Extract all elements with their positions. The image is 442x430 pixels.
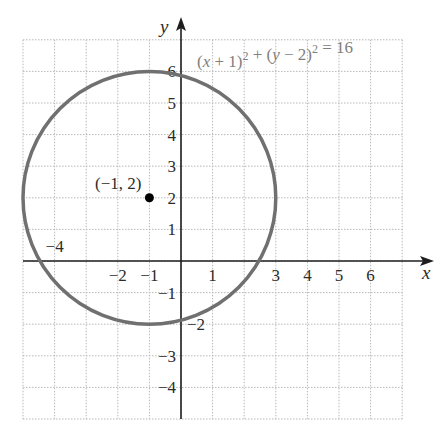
center-point: (−1, 2) xyxy=(95,174,154,203)
y-tick-label: 2 xyxy=(168,189,177,208)
axes xyxy=(23,17,434,419)
x-tick-label: −1 xyxy=(140,266,158,285)
grid xyxy=(23,40,402,419)
x-tick-label: 6 xyxy=(366,266,375,285)
y-tick-label: 5 xyxy=(168,94,177,113)
x-tick-label: 4 xyxy=(303,266,312,285)
x-tick-label: 3 xyxy=(272,266,281,285)
y-tick-label: −1 xyxy=(158,284,176,303)
y-tick-label: 4 xyxy=(168,126,177,145)
y-tick-label: 3 xyxy=(168,157,177,176)
y-tick-label: −3 xyxy=(158,347,176,366)
center-point-label: (−1, 2) xyxy=(95,174,141,193)
x-tick-label: −2 xyxy=(109,266,127,285)
equation-label: (x + 1)2 + (y − 2)2 = 16 xyxy=(197,38,353,71)
circle-graph: −4−2−113456654321−1−2−3−4 (−1, 2) (x + 1… xyxy=(0,0,442,430)
y-axis-label: y xyxy=(158,16,169,37)
center-dot xyxy=(145,193,154,202)
y-tick-label: −4 xyxy=(158,378,177,397)
x-tick-label: −4 xyxy=(46,237,65,256)
x-axis-label: x xyxy=(421,262,431,283)
x-tick-label: 1 xyxy=(208,266,217,285)
x-tick-label: 5 xyxy=(335,266,344,285)
y-tick-label: 1 xyxy=(168,220,177,239)
